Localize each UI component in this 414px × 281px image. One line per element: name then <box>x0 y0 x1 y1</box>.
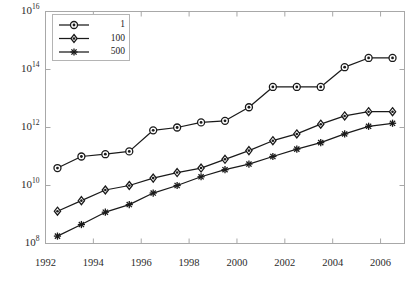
y-axis-label: 1014 <box>21 62 40 74</box>
series-500 <box>54 120 396 240</box>
y-axis-label: 1016 <box>21 4 40 16</box>
legend-label-1: 1 <box>93 19 125 29</box>
legend-entry-1[interactable] <box>59 22 89 29</box>
y-axis-label-exponent: 10 <box>32 176 40 185</box>
legend-label-500: 500 <box>93 46 125 56</box>
y-axis-label-base: 10 <box>25 236 36 248</box>
y-axis-label-base: 10 <box>21 62 32 74</box>
y-axis-label-base: 10 <box>21 4 32 16</box>
legend-entry-500[interactable] <box>59 48 89 55</box>
legend-label-100: 100 <box>93 33 125 43</box>
legend-entry-100[interactable] <box>59 35 89 43</box>
chart-container: 1016101410121010108199219941996199820002… <box>0 0 414 281</box>
y-axis-label-exponent: 14 <box>32 60 40 69</box>
y-axis-label: 1012 <box>21 120 40 132</box>
y-axis-label-exponent: 8 <box>36 234 40 243</box>
y-axis-label-exponent: 12 <box>32 118 40 127</box>
y-axis-label: 108 <box>25 236 40 248</box>
y-axis-label: 1010 <box>21 178 40 190</box>
y-axis-label-base: 10 <box>21 120 32 132</box>
chart-legend: 1100500 <box>52 14 130 61</box>
y-axis-label-exponent: 16 <box>32 2 40 11</box>
x-axis-label: 2006 <box>351 257 411 268</box>
y-axis-label-base: 10 <box>21 178 32 190</box>
